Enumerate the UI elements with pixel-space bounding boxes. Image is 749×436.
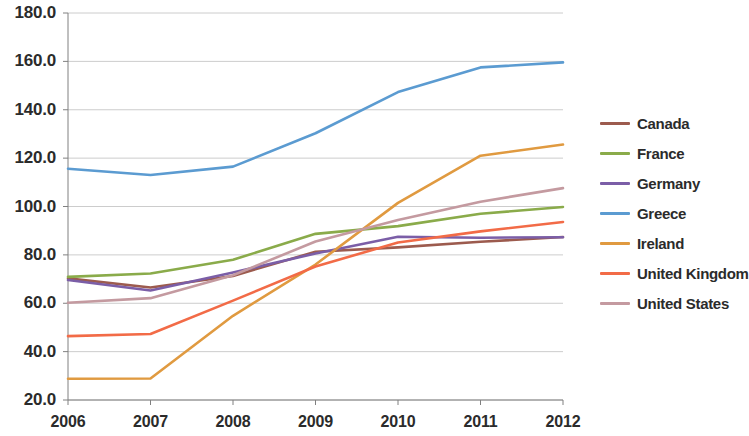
legend-item-label: Canada	[637, 115, 689, 132]
x-axis-label: 2007	[133, 413, 168, 431]
legend-item-canada[interactable]: Canada	[600, 108, 748, 138]
legend-color-swatch	[600, 302, 630, 305]
legend-item-label: Ireland	[637, 235, 684, 252]
x-axis-label: 2006	[51, 413, 86, 431]
legend-item-france[interactable]: France	[600, 138, 748, 168]
legend-color-swatch	[600, 152, 630, 155]
legend-item-label: United States	[637, 295, 729, 312]
x-axis-label: 2011	[464, 413, 498, 431]
legend-item-label: Germany	[637, 175, 700, 192]
legend-item-ireland[interactable]: Ireland	[600, 228, 748, 258]
legend-color-swatch	[600, 182, 630, 185]
x-axis-label: 2010	[381, 413, 416, 431]
x-axis-tick-labels: 2006200720082009201020112012	[0, 0, 600, 436]
legend-color-swatch	[600, 242, 630, 245]
legend-color-swatch	[600, 212, 630, 215]
legend-item-united-kingdom[interactable]: United Kingdom	[600, 258, 748, 288]
plot-area: 180.0160.0140.0120.0100.080.060.040.020.…	[0, 0, 600, 436]
legend-item-greece[interactable]: Greece	[600, 198, 748, 228]
legend-color-swatch	[600, 272, 630, 275]
x-axis-label: 2008	[216, 413, 251, 431]
legend-item-label: United Kingdom	[637, 265, 749, 282]
x-axis-label: 2012	[546, 413, 581, 431]
legend-item-label: France	[637, 145, 684, 162]
x-axis-label: 2009	[298, 413, 333, 431]
legend-item-germany[interactable]: Germany	[600, 168, 748, 198]
legend-color-swatch	[600, 122, 630, 125]
chart-legend: CanadaFranceGermanyGreeceIrelandUnited K…	[600, 108, 748, 318]
legend-item-label: Greece	[637, 205, 686, 222]
legend-item-united-states[interactable]: United States	[600, 288, 748, 318]
